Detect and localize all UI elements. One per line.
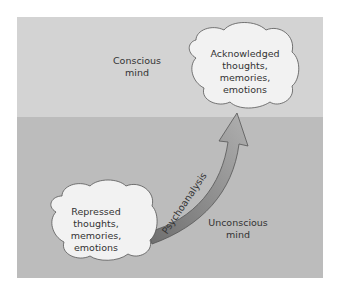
repressed-line: emotions — [74, 242, 118, 253]
acknowledged-line: emotions — [223, 84, 267, 95]
repressed-line: memories, — [71, 230, 122, 241]
acknowledged-line: Acknowledged — [210, 48, 279, 59]
acknowledged-line: thoughts, — [222, 60, 267, 71]
conscious-line: mind — [125, 67, 149, 78]
repressed-line: Repressed — [71, 206, 120, 217]
conscious-line: Conscious — [113, 55, 161, 66]
acknowledged-line: memories, — [220, 72, 271, 83]
repressed-line: thoughts, — [73, 218, 118, 229]
unconscious-line: mind — [226, 229, 250, 240]
repressed-text: Repressedthoughts,memories,emotions — [71, 206, 122, 253]
diagram: Psychoanalysis Consciousmind Unconscious… — [0, 0, 337, 291]
unconscious-line: Unconscious — [208, 217, 268, 228]
